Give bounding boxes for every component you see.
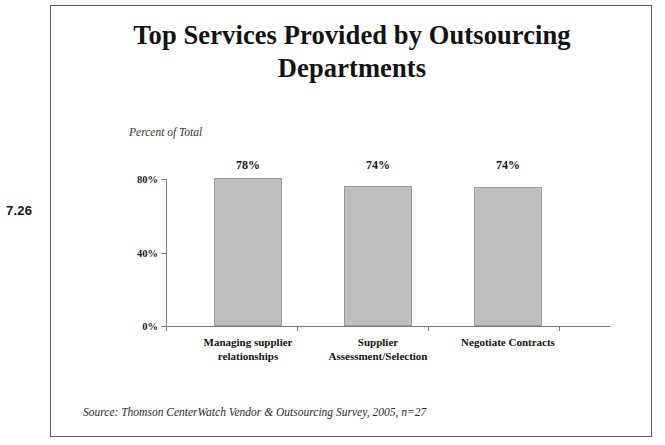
source-note: Source: Thomson CenterWatch Vendor & Out… (83, 406, 426, 418)
plot-area: 80% 40% 0% 78% Managing supplier relatio… (166, 174, 616, 331)
y-axis-tick-mark-40 (161, 253, 166, 254)
bar-value-label-2: 74% (366, 158, 390, 173)
x-axis-category-label-3: Negotiate Contracts (418, 335, 598, 349)
x-axis-tick-mark-2 (428, 326, 429, 331)
category-label-2-line-2: Assessment/Selection (288, 349, 468, 363)
y-axis-tick-label-40: 40% (137, 247, 158, 258)
y-axis-caption: Percent of Total (129, 126, 202, 138)
bar-value-label-1: 78% (236, 158, 260, 173)
bar-value-label-3: 74% (496, 158, 520, 173)
chart-title: Top Services Provided by Outsourcing Dep… (81, 19, 623, 85)
y-axis-tick-mark-0 (161, 326, 166, 327)
y-axis-tick-label-80: 80% (137, 174, 158, 185)
figure-number: 7.26 (6, 203, 32, 218)
x-axis-tick-mark-1 (297, 326, 298, 331)
chart-title-line-2: Departments (81, 52, 623, 85)
y-axis-tick-mark-80 (161, 179, 166, 180)
y-axis-line (166, 179, 167, 331)
slide-frame: Top Services Provided by Outsourcing Dep… (50, 5, 652, 437)
bar-managing-supplier-relationships[interactable] (214, 178, 282, 326)
x-axis-line (166, 326, 611, 327)
bar-supplier-assessment-selection[interactable] (344, 186, 412, 326)
category-label-3-line-1: Negotiate Contracts (418, 335, 598, 349)
x-axis-tick-mark-3 (559, 326, 560, 331)
bar-negotiate-contracts[interactable] (474, 187, 542, 326)
y-axis-tick-label-0: 0% (142, 321, 158, 332)
chart-title-line-1: Top Services Provided by Outsourcing (81, 19, 623, 52)
